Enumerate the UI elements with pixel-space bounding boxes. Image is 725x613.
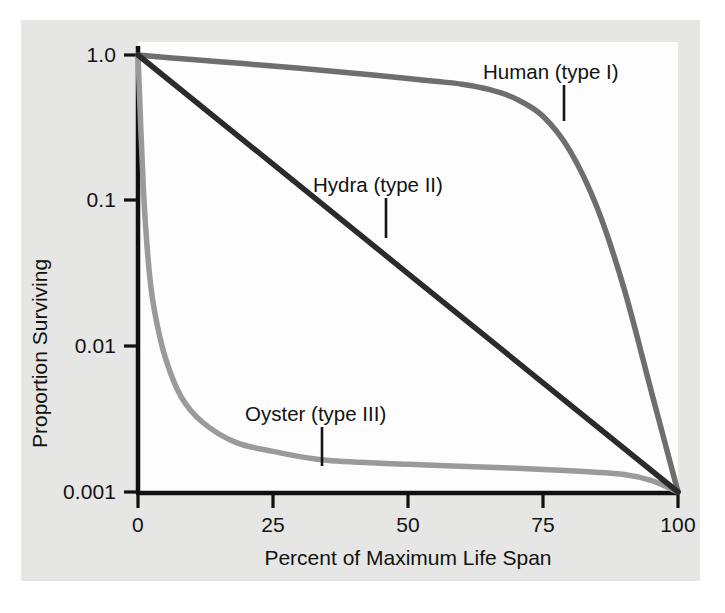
x-tick-label-3: 50 (378, 513, 438, 537)
y-tick-label-2: 0.1 (36, 188, 116, 212)
series-label-hydra: Hydra (type II) (313, 173, 443, 197)
series-label-oyster: Oyster (type III) (245, 402, 386, 426)
x-tick-label-1: 0 (108, 513, 168, 537)
series-label-human: Human (type I) (483, 60, 619, 84)
figure-container: 1.0 0.1 0.01 0.001 0 25 50 75 100 Propor… (0, 0, 725, 613)
curve-hydra-type-ii (138, 55, 678, 492)
y-tick-label-1: 1.0 (36, 43, 116, 67)
data-curves (138, 55, 678, 492)
x-tick-label-5: 100 (646, 513, 710, 537)
y-tick-label-4: 0.001 (26, 480, 116, 504)
x-tick-label-4: 75 (513, 513, 573, 537)
x-axis-title: Percent of Maximum Life Span (138, 546, 678, 570)
x-tick-label-2: 25 (243, 513, 303, 537)
y-axis-title: Proportion Surviving (28, 259, 52, 448)
